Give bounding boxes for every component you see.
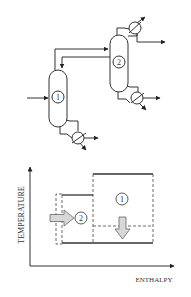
- column-1-reboiler: [60, 120, 98, 150]
- down-shift-arrow-icon: [115, 217, 130, 239]
- column-2-label: 2: [117, 58, 121, 67]
- flowsheet: 1 2: [27, 17, 165, 150]
- region-2-label: 2: [79, 214, 83, 223]
- diagram-canvas: 1 2: [0, 0, 191, 297]
- distillation-column-1: 1: [49, 70, 67, 127]
- y-axis-label: TEMPERATURE: [17, 186, 26, 243]
- reboiler-1-utility-arrow: [80, 143, 86, 150]
- region-2: 2: [50, 194, 93, 244]
- region-1-label: 1: [120, 195, 124, 204]
- distillation-column-2: 2: [110, 35, 128, 92]
- column-1-label: 1: [56, 93, 60, 102]
- liquid-return-to-column-1-arrow: [62, 57, 110, 68]
- vapor-to-column-2-arrow: [55, 49, 108, 70]
- x-axis-label: ENTHALPY: [136, 276, 173, 284]
- temperature-enthalpy-chart: TEMPERATURE ENTHALPY 1 2: [17, 167, 174, 284]
- reboiler-2-utility-arrow: [139, 103, 146, 110]
- region-1: 1: [93, 174, 153, 243]
